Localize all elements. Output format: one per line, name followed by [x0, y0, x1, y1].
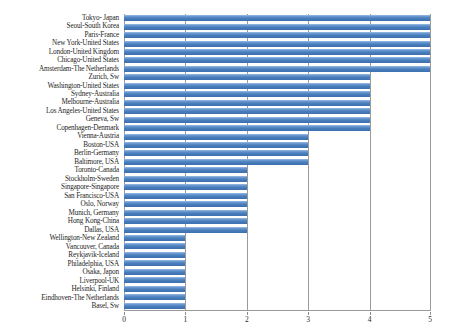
- bar-row: [124, 285, 430, 293]
- bar-row: [124, 31, 430, 39]
- bar: [124, 286, 185, 292]
- bar: [124, 24, 430, 30]
- bar-row: [124, 132, 430, 140]
- bar-row: [124, 268, 430, 276]
- bar: [124, 66, 430, 72]
- bar: [124, 100, 370, 106]
- bar: [124, 201, 247, 207]
- bar-row: [124, 90, 430, 98]
- bar: [124, 176, 247, 182]
- bar: [124, 277, 185, 283]
- bar-row: [124, 276, 430, 284]
- bar-row: [124, 107, 430, 115]
- category-label: Reykjavik-Iceland: [0, 252, 122, 260]
- category-label: Helsinki, Finland: [0, 286, 122, 294]
- category-label: New York-United States: [0, 39, 122, 47]
- bar-row: [124, 192, 430, 200]
- bar: [124, 193, 247, 199]
- bar: [124, 125, 370, 131]
- bar: [124, 49, 430, 55]
- tick-label: 3: [306, 316, 310, 324]
- bar: [124, 303, 185, 309]
- category-label: Singapore-Singapore: [0, 184, 122, 192]
- bar: [124, 210, 247, 216]
- category-label: Osaka, Japon: [0, 269, 122, 277]
- bar-row: [124, 175, 430, 183]
- bar-row: [124, 65, 430, 73]
- bar: [124, 150, 308, 156]
- bar: [124, 57, 430, 63]
- bar: [124, 167, 247, 173]
- bar: [124, 41, 430, 47]
- bar-row: [124, 22, 430, 30]
- bar-row: [124, 39, 430, 47]
- tick-label: 5: [428, 316, 432, 324]
- bar: [124, 227, 247, 233]
- tick-label: 4: [368, 316, 372, 324]
- category-label: Hong Kong-China: [0, 218, 122, 226]
- bar-row: [124, 251, 430, 259]
- bar-row: [124, 242, 430, 250]
- bar: [124, 252, 185, 258]
- tick-label: 0: [122, 316, 126, 324]
- bar: [124, 218, 247, 224]
- category-label: Berlin-Germany: [0, 150, 122, 158]
- bar-row: [124, 183, 430, 191]
- bar-row: [124, 259, 430, 267]
- gridline: [430, 14, 431, 310]
- category-label: Seoul-South Korea: [0, 22, 122, 30]
- bar: [124, 142, 308, 148]
- bar-row: [124, 301, 430, 309]
- bar-row: [124, 115, 430, 123]
- bar: [124, 108, 370, 114]
- bar-row: [124, 217, 430, 225]
- category-label: Vienna-Austria: [0, 133, 122, 141]
- bar-row: [124, 158, 430, 166]
- bar-row: [124, 56, 430, 64]
- category-label: Wellington-New Zealand: [0, 235, 122, 243]
- bar-series: [124, 14, 430, 310]
- value-axis: 012345: [124, 312, 431, 332]
- bar-row: [124, 166, 430, 174]
- bar: [124, 269, 185, 275]
- category-axis-labels: Tokyo- JapanSeoul-South KoreaParis-Franc…: [0, 14, 122, 311]
- tick-label: 2: [245, 316, 249, 324]
- bar: [124, 243, 185, 249]
- category-label: Basel, Sw: [0, 302, 122, 310]
- bar-row: [124, 141, 430, 149]
- plot-area: [124, 14, 431, 311]
- bar: [124, 74, 370, 80]
- horizontal-bar-chart: Tokyo- JapanSeoul-South KoreaParis-Franc…: [0, 0, 449, 336]
- bar: [124, 117, 370, 123]
- bar: [124, 134, 308, 140]
- category-label: Chicago-United States: [0, 56, 122, 64]
- bar: [124, 15, 430, 21]
- bar-row: [124, 200, 430, 208]
- bar-row: [124, 225, 430, 233]
- bar-row: [124, 99, 430, 107]
- bar-row: [124, 82, 430, 90]
- bar: [124, 32, 430, 38]
- category-label: Zurich, Sw: [0, 73, 122, 81]
- bar: [124, 83, 370, 89]
- bar-row: [124, 149, 430, 157]
- bar-row: [124, 48, 430, 56]
- bar: [124, 235, 185, 241]
- bar: [124, 91, 370, 97]
- bar-row: [124, 124, 430, 132]
- category-label: Oslo, Norway: [0, 201, 122, 209]
- bar-row: [124, 234, 430, 242]
- bar-row: [124, 293, 430, 301]
- bar: [124, 260, 185, 266]
- bar: [124, 294, 185, 300]
- bar: [124, 159, 308, 165]
- bar-row: [124, 73, 430, 81]
- tick-label: 1: [184, 316, 188, 324]
- bar: [124, 184, 247, 190]
- category-label: Toronto-Canada: [0, 167, 122, 175]
- bar-row: [124, 208, 430, 216]
- bar-row: [124, 14, 430, 22]
